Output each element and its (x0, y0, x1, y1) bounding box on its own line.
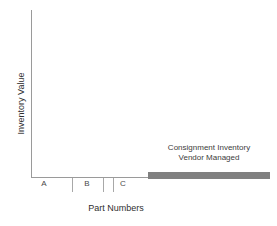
x-axis-tick-label-a: A (37, 179, 51, 189)
annotation-line-2: Vendor Managed (147, 153, 271, 163)
x-axis-tick-label-b: B (80, 179, 94, 189)
annotation-line-1: Consignment Inventory (147, 143, 271, 153)
x-axis-title: Part Numbers (31, 203, 201, 214)
y-axis-title: Inventory Value (16, 56, 27, 152)
inventory-value-chart: A B C Consignment Inventory Vendor Manag… (0, 0, 277, 226)
x-axis-line (31, 177, 148, 178)
x-axis-tick-2 (103, 178, 104, 192)
x-axis-tick-label-c: C (116, 179, 130, 189)
x-axis-tick-3 (113, 178, 114, 192)
consignment-inventory-bar (148, 172, 270, 179)
x-axis-tick-1 (72, 178, 73, 192)
consignment-bar-annotation: Consignment Inventory Vendor Managed (147, 143, 271, 163)
y-axis-line (31, 10, 32, 178)
